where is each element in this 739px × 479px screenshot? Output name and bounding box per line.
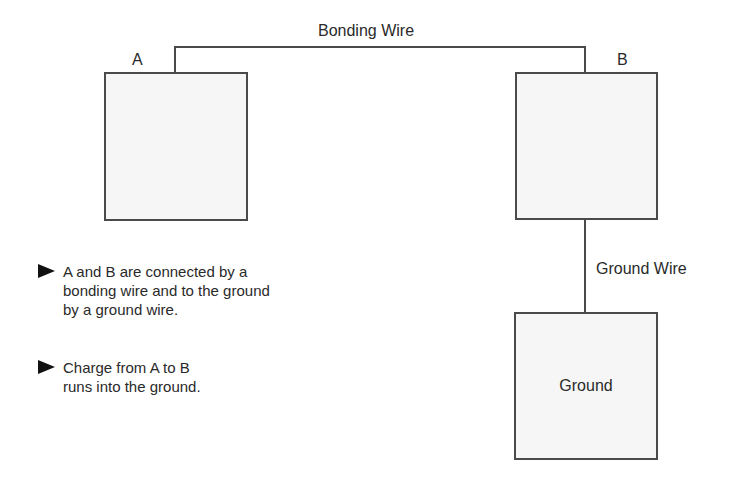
node-a-box bbox=[104, 72, 248, 221]
bonding-wire-horizontal bbox=[174, 46, 586, 48]
note-text: Charge from A to B runs into the ground. bbox=[63, 358, 213, 396]
node-a-label: A bbox=[132, 51, 143, 69]
bonding-wire-label: Bonding Wire bbox=[318, 22, 414, 40]
ground-box: Ground bbox=[514, 312, 658, 460]
bonding-wire-left-drop bbox=[174, 46, 176, 73]
triangle-right-icon bbox=[38, 360, 55, 374]
node-b-box bbox=[515, 72, 658, 220]
bonding-wire-right-drop bbox=[584, 46, 586, 73]
note-item: A and B are connected by a bonding wire … bbox=[38, 262, 308, 319]
note-text: A and B are connected by a bonding wire … bbox=[63, 262, 283, 319]
triangle-right-icon bbox=[38, 264, 55, 278]
note-item: Charge from A to B runs into the ground. bbox=[38, 358, 308, 396]
ground-wire bbox=[584, 219, 586, 313]
ground-wire-label: Ground Wire bbox=[596, 260, 687, 278]
ground-box-label: Ground bbox=[516, 377, 656, 395]
node-b-label: B bbox=[617, 51, 628, 69]
